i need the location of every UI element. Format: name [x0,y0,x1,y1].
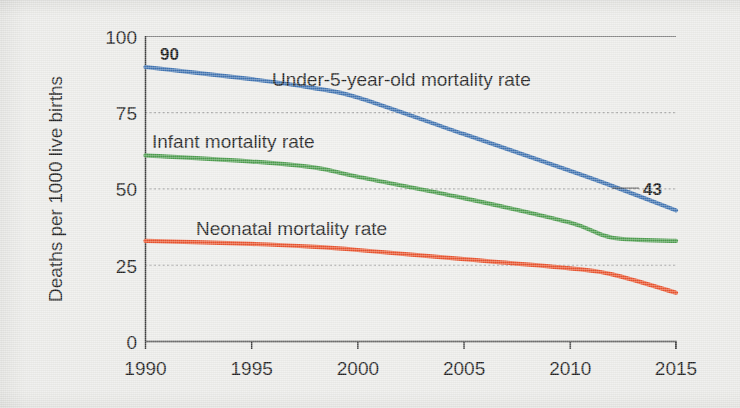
series-line-neonatal-mortality-rate [146,241,677,293]
figure-canvas: 100 75 50 25 0 1990 1995 2000 2005 2010 … [0,0,740,408]
x-tick-labels: 1990 1995 2000 2005 2010 2015 [124,358,697,379]
y-tick-labels: 100 75 50 25 0 [105,27,137,353]
y-tick-label-25: 25 [116,256,137,277]
x-tick-label-1995: 1995 [231,358,273,379]
x-tick-label-2005: 2005 [443,358,485,379]
x-tick-label-1990: 1990 [124,358,166,379]
y-tick-label-50: 50 [116,179,137,200]
series-label-neonatal: Neonatal mortality rate [196,218,387,239]
x-axis-line [145,342,676,350]
y-tick-label-0: 0 [126,332,137,353]
annotation-end-value-43: 43 [643,180,662,199]
y-tick-label-100: 100 [105,27,137,48]
y-axis-title: Deaths per 1000 live births [45,76,66,302]
series-lines [146,67,677,293]
mortality-rate-line-chart: 100 75 50 25 0 1990 1995 2000 2005 2010 … [0,0,740,408]
series-label-infant: Infant mortality rate [152,131,315,152]
x-tick-label-2010: 2010 [549,358,591,379]
series-label-under5: Under-5-year-old mortality rate [272,69,531,90]
y-tick-label-75: 75 [116,103,137,124]
x-tick-label-2015: 2015 [655,358,697,379]
annotation-start-value-90: 90 [160,45,179,64]
x-tick-label-2000: 2000 [337,358,379,379]
